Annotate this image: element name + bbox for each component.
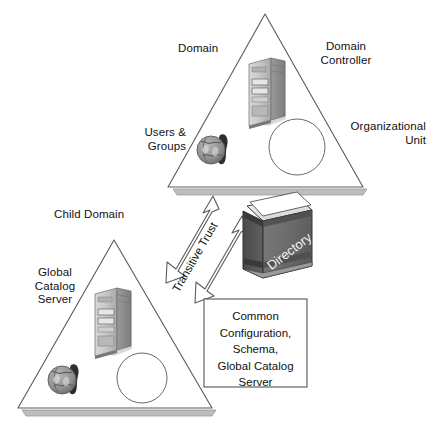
users-groups-label: Users &Groups [122,126,186,153]
common-config-line-4: Global Catalog [204,358,307,375]
child-domain-label: Child Domain [54,208,124,222]
common-config-line-5: Server [204,374,307,391]
parent-domain-label: Domain [178,42,218,56]
child-domain-base-shadow [22,410,216,416]
ou-circle-icon-parent [269,119,325,175]
organizational-unit-label: OrganizationalUnit [318,120,426,147]
common-config-line-2: Configuration, [204,325,307,342]
common-config-line-3: Schema, [204,341,307,358]
diagram-canvas: Domain DomainController OrganizationalUn… [0,0,431,432]
domain-controller-label: DomainController [304,40,388,67]
parent-domain-base-shadow [173,189,367,195]
common-configuration-text: Common Configuration, Schema, Global Cat… [204,308,307,391]
server-tower-icon-parent [249,58,286,129]
ou-circle-icon-child [117,353,167,403]
server-tower-icon-child [95,288,132,359]
common-config-line-1: Common [204,308,307,325]
global-catalog-server-label: GlobalCatalogServer [10,266,100,307]
